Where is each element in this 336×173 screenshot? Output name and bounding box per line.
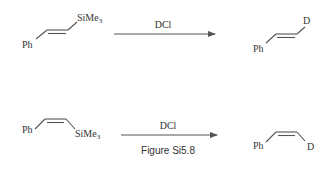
ph-label: Ph	[253, 140, 264, 151]
ph-label: Ph	[22, 39, 33, 50]
simes-label: SiMe3	[75, 128, 101, 141]
ph-label: Ph	[253, 43, 264, 54]
reaction-scheme: Ph SiMe3 DCl Ph D Ph SiMe3 DCl	[0, 0, 336, 173]
reaction-arrow-1: DCl	[114, 19, 215, 34]
reaction-2: Ph SiMe3 DCl Figure Si5.8 Ph D	[22, 119, 314, 156]
product-1-trans-deuterostyrene: Ph D	[253, 15, 310, 54]
reaction-arrow-2: DCl	[121, 120, 217, 135]
simes-label: SiMe3	[77, 12, 103, 25]
reactant-2-cis-vinylsilane: Ph SiMe3	[22, 119, 101, 141]
product-2-cis-deuterostyrene: Ph D	[253, 132, 314, 152]
reactant-1-trans-vinylsilane: Ph SiMe3	[22, 12, 103, 50]
ph-label: Ph	[22, 124, 33, 135]
deuterium-label: D	[303, 15, 310, 26]
figure-caption: Figure Si5.8	[141, 145, 195, 156]
reagent-label-2: DCl	[160, 120, 177, 131]
reaction-1: Ph SiMe3 DCl Ph D	[22, 12, 310, 54]
reagent-label-1: DCl	[155, 19, 172, 30]
deuterium-label: D	[307, 141, 314, 152]
